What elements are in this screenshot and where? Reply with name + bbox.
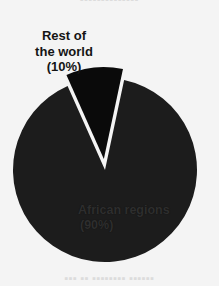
pie-label-african-regions-name: African regions [78,203,170,217]
pie-chart-figure: ▪▪▪▪▪▪▪▪▪▪▪▪▪▪ Rest of the world (10%) A… [0,0,219,286]
pie-label-african-regions: African regions (90%) [78,188,198,247]
pie-label-african-regions-percent: (90%) [78,218,198,233]
pie-label-rest-of-the-world: Rest of the world (10%) [8,13,120,74]
pie-label-rest-of-the-world-text: Rest of the world (10%) [35,28,93,74]
